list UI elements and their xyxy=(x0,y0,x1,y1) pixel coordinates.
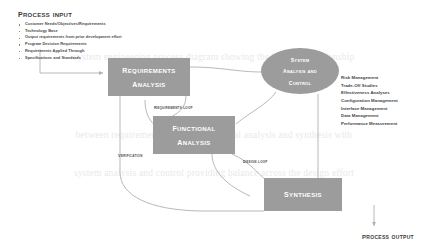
label-requirements-loop: Requirements loop xyxy=(154,104,193,110)
process-input-list: Customer Needs/Objectives/Requirements T… xyxy=(18,21,122,61)
node-requirements-analysis: Requirements Analysis xyxy=(108,58,190,96)
list-item: Specifications and Standards xyxy=(18,55,122,62)
diagram-canvas: system engineering process diagram showi… xyxy=(0,0,428,252)
list-item: Effectiveness Analyses xyxy=(341,89,398,97)
list-item: Data Management xyxy=(341,112,398,120)
list-item: Interface Management xyxy=(341,105,398,113)
process-output-label: Process Output xyxy=(362,231,414,241)
wire-req-to-sac xyxy=(190,67,262,72)
list-item: Output requirements from prior developme… xyxy=(18,34,122,41)
list-item: Configuration Management xyxy=(341,97,398,105)
node-label-line-1: Synthesis xyxy=(284,187,322,202)
node-synthesis: Synthesis xyxy=(264,178,342,211)
system-analysis-control-list: Risk Management Trade-Off Studies Effect… xyxy=(341,74,398,127)
process-input-heading: Process Input xyxy=(18,8,122,19)
label-verification: Verification xyxy=(118,152,143,158)
process-input-block: Process Input Customer Needs/Objectives/… xyxy=(18,8,122,61)
list-item: Customer Needs/Objectives/Requirements xyxy=(18,21,122,28)
node-label-line-2: Analysis xyxy=(177,135,210,150)
list-item: Technology Base xyxy=(18,28,122,35)
label-design-loop: Design loop xyxy=(243,158,268,164)
node-system-analysis-and-control: System Analysis and Control xyxy=(261,48,339,94)
node-label-line-1: Requirements xyxy=(122,63,175,78)
list-item: Performance Measurement xyxy=(341,120,398,128)
list-item: Program Decision Requirements xyxy=(18,41,122,48)
list-item: Risk Management xyxy=(341,74,398,82)
node-functional-analysis: Functional Analysis xyxy=(153,116,235,154)
node-label-line-2: Analysis xyxy=(132,77,165,92)
node-label-line-3: Control xyxy=(289,77,311,89)
wire-sac-to-functional xyxy=(236,92,276,124)
list-item: Requirements Applied Through xyxy=(18,48,122,55)
node-label-line-2: Analysis and xyxy=(283,65,317,77)
list-item: Trade-Off Studies xyxy=(341,82,398,90)
node-label-line-1: System xyxy=(291,54,310,66)
node-label-line-1: Functional xyxy=(172,121,215,136)
